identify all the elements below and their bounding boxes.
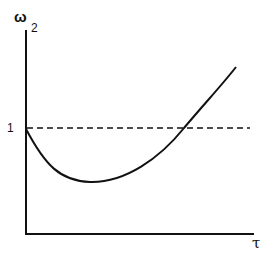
chart-area: ω 2 1 τ <box>0 0 273 262</box>
y-axis-label: ω <box>14 8 27 25</box>
y-tick-1: 1 <box>7 121 14 135</box>
y-axis-superscript: 2 <box>31 21 38 35</box>
plot-svg <box>0 0 273 262</box>
x-axis-label: τ <box>252 234 260 252</box>
omega-squared-curve <box>26 67 236 182</box>
